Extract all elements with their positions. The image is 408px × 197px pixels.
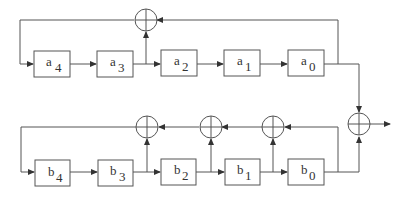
register-a2: a 2 [161, 50, 197, 76]
top-adder [135, 9, 157, 31]
lfsr-block-diagram: a 4 a 3 a 2 a 1 a 0 [0, 0, 408, 197]
label-sub: 0 [309, 168, 316, 183]
label-base: b [174, 162, 181, 177]
output-adder [348, 113, 370, 135]
label-sub: 3 [119, 169, 126, 184]
label-base: b [110, 163, 117, 178]
label-sub: 1 [245, 168, 252, 183]
label-base: a [174, 53, 180, 68]
bottom-adder-2 [200, 116, 222, 138]
label-base: a [301, 53, 307, 68]
top-output-wire [338, 64, 359, 112]
label-base: a [237, 53, 243, 68]
bottom-output-wire [338, 137, 359, 172]
bottom-register: b 4 b 3 b 2 b 1 b 0 [21, 116, 359, 186]
label-sub: 4 [56, 170, 63, 185]
register-b2: b 2 [161, 159, 196, 185]
label-sub: 3 [118, 60, 125, 75]
label-sub: 2 [182, 168, 189, 183]
register-a1: a 1 [224, 50, 260, 76]
register-b3: b 3 [98, 160, 133, 186]
label-sub: 0 [309, 59, 316, 74]
label-sub: 4 [55, 60, 62, 75]
bottom-adder-3 [262, 116, 284, 138]
register-a0: a 0 [288, 50, 324, 76]
label-base: a [110, 54, 116, 69]
label-base: b [301, 162, 308, 177]
register-b0: b 0 [288, 159, 324, 185]
register-b4: b 4 [35, 160, 70, 186]
register-a4: a 4 [34, 51, 70, 77]
label-base: a [46, 54, 52, 69]
bottom-adder-1 [136, 116, 158, 138]
label-sub: 2 [182, 59, 189, 74]
label-base: b [48, 164, 55, 179]
register-b1: b 1 [225, 159, 260, 185]
register-a3: a 3 [97, 51, 133, 77]
label-sub: 1 [245, 59, 252, 74]
top-register: a 4 a 3 a 2 a 1 a 0 [20, 9, 359, 112]
label-base: b [237, 162, 244, 177]
